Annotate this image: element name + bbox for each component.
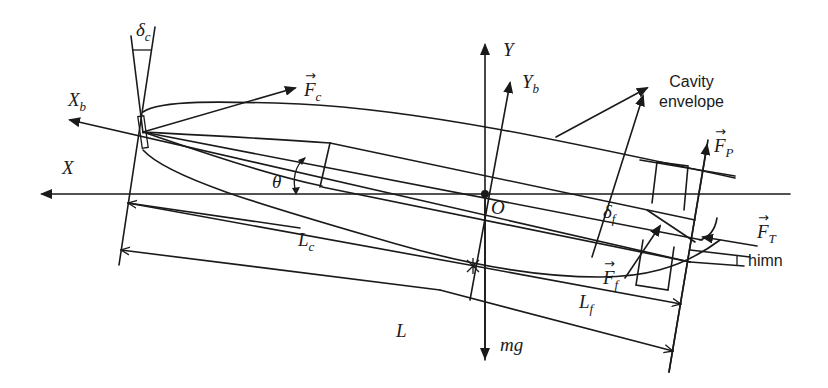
fc-arrow bbox=[143, 88, 295, 132]
label-himn: himn bbox=[748, 253, 783, 269]
yb-axis bbox=[470, 83, 510, 300]
body-center-line bbox=[143, 132, 702, 240]
label-f-f: Ff bbox=[603, 268, 618, 287]
label-l-f: Lf bbox=[579, 292, 593, 311]
body-lower-edge bbox=[322, 187, 690, 262]
label-theta: θ bbox=[272, 172, 281, 191]
ft-arrow bbox=[703, 237, 757, 246]
label-l-c: Lc bbox=[298, 230, 314, 249]
label-origin: O bbox=[491, 198, 505, 217]
ff-arrow bbox=[625, 226, 660, 278]
cavity-envelope-pointer-2 bbox=[592, 96, 643, 257]
lc-dimension-left bbox=[128, 203, 300, 228]
label-delta-f: δf bbox=[603, 202, 615, 221]
cavitator-line-right bbox=[119, 27, 155, 265]
diagram-drawing bbox=[0, 0, 828, 388]
label-x: X bbox=[62, 158, 74, 177]
l-dimension-line-right bbox=[440, 290, 673, 351]
label-delta-c: δc bbox=[136, 20, 151, 39]
lower-fin bbox=[636, 240, 674, 290]
body-upper-edge bbox=[330, 143, 695, 220]
label-l: L bbox=[396, 321, 407, 340]
l-dimension-line bbox=[121, 250, 440, 290]
label-y: Y bbox=[503, 40, 514, 59]
label-f-t: FT bbox=[757, 222, 776, 241]
label-mg: mg bbox=[500, 335, 523, 354]
label-x-b: Xb bbox=[68, 90, 86, 109]
label-f-c: Fc bbox=[304, 80, 321, 99]
upper-fin bbox=[652, 162, 688, 210]
diagram-canvas: δc Xb X Fc Y Yb θ O δf FP FT Ff Lc Lf L … bbox=[0, 0, 828, 388]
label-cavity-line2: envelope bbox=[659, 92, 724, 112]
label-f-p: FP bbox=[714, 136, 734, 155]
dim-extension-right bbox=[669, 140, 708, 372]
origin-point bbox=[481, 190, 489, 198]
cavity-envelope-pointer-1 bbox=[556, 88, 647, 137]
himn-line-bottom bbox=[690, 262, 744, 266]
label-cavity-envelope: Cavity envelope bbox=[659, 72, 724, 112]
body-section-line bbox=[320, 143, 330, 187]
label-y-b: Yb bbox=[522, 72, 539, 91]
label-cavity-line1: Cavity bbox=[659, 72, 724, 92]
